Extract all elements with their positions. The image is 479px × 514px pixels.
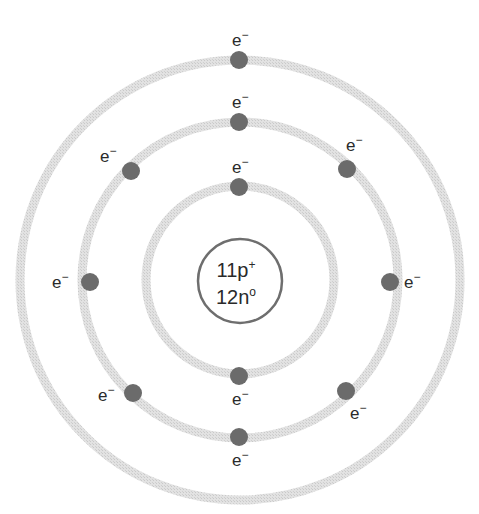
- electron-label: e−: [232, 90, 248, 112]
- electron-label: e−: [232, 28, 248, 50]
- electron-icon: [230, 51, 248, 69]
- electron-icon: [337, 382, 355, 400]
- electron-icon: [381, 273, 399, 291]
- outer-shell-electrons: e−: [230, 28, 248, 69]
- electron-label: e−: [52, 270, 68, 292]
- electron-label: e−: [100, 144, 116, 166]
- electron-label: e−: [346, 133, 362, 155]
- electron-icon: [338, 160, 356, 178]
- electron-label: e−: [350, 401, 366, 423]
- electron-icon: [81, 273, 99, 291]
- electron-label: e−: [98, 383, 114, 405]
- nucleus-circle: [198, 239, 282, 323]
- electron-label: e−: [232, 155, 248, 177]
- electron-label: e−: [232, 448, 248, 470]
- electron-icon: [124, 384, 142, 402]
- electron-label: e−: [232, 387, 248, 409]
- electron-icon: [230, 367, 248, 385]
- electron-icon: [230, 178, 248, 196]
- electron-label: e−: [404, 270, 420, 292]
- electron-icon: [230, 113, 248, 131]
- nucleus: 11p+ 12no: [198, 239, 282, 323]
- sodium-atom-diagram: 11p+ 12no e− e− e− e− e− e− e− e− e− e− …: [0, 0, 479, 514]
- electron-icon: [122, 162, 140, 180]
- electron-icon: [230, 428, 248, 446]
